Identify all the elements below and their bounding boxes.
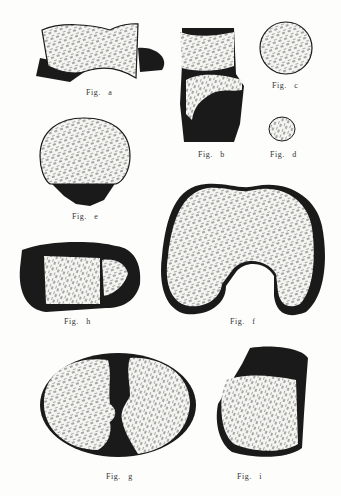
- figure-c-disc-drawing: [258, 20, 314, 76]
- figure-b-label: Fig. b: [198, 150, 225, 159]
- figure-d-disc-drawing: [268, 116, 296, 142]
- figure-f-femur-drawing: [156, 176, 328, 318]
- figure-e-bone-drawing: [36, 116, 134, 208]
- figure-e-label: Fig. e: [72, 212, 98, 221]
- figure-c-label: Fig. c: [272, 81, 298, 90]
- figure-b-bone-drawing: [176, 24, 246, 144]
- figure-h-bone-drawing: [16, 238, 144, 316]
- figure-f-label: Fig. f: [230, 317, 255, 326]
- figure-i-bone-drawing: [212, 344, 312, 462]
- figure-a-bone-drawing: [30, 18, 170, 84]
- figure-g-label: Fig. g: [106, 472, 133, 481]
- figure-g-bone-drawing: [38, 350, 198, 460]
- illustration-plate: Fig. a Fig. b Fig. c Fig. d Fig. e: [0, 0, 341, 496]
- figure-a-label: Fig. a: [86, 88, 112, 97]
- figure-h-label: Fig. h: [64, 317, 91, 326]
- figure-i-label: Fig. i: [237, 472, 262, 481]
- figure-d-label: Fig. d: [270, 150, 297, 159]
